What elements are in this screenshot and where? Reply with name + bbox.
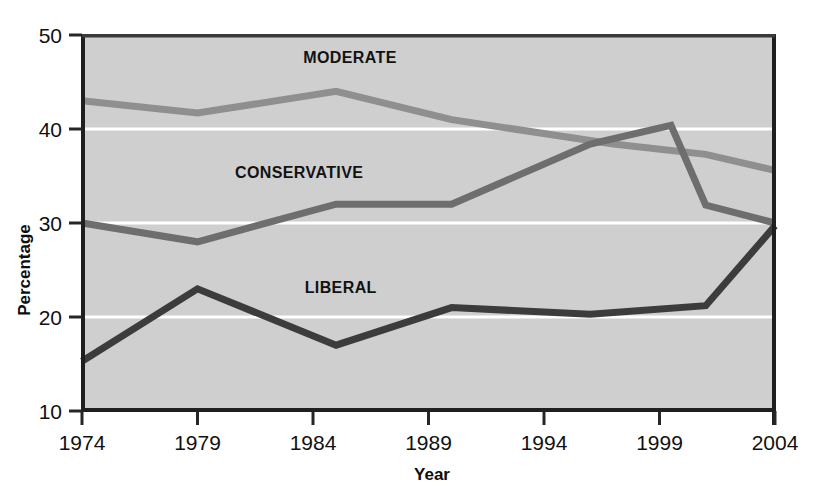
chart-canvas: 1020304050 1974197919841989199419992004 … <box>0 0 814 499</box>
x-tick-label-1974: 1974 <box>59 431 106 454</box>
series-label-moderate: MODERATE <box>303 49 397 66</box>
x-tick-label-1979: 1979 <box>174 431 221 454</box>
series-label-liberal: LIBERAL <box>305 279 377 296</box>
x-tick-label-2004: 2004 <box>752 431 799 454</box>
x-tick-label-1984: 1984 <box>290 431 337 454</box>
y-tick-label-40: 40 <box>39 118 62 141</box>
y-axis-ticks: 1020304050 <box>39 24 82 423</box>
x-tick-label-1999: 1999 <box>636 431 683 454</box>
x-axis-ticks: 1974197919841989199419992004 <box>59 411 799 454</box>
y-tick-label-50: 50 <box>39 24 62 47</box>
series-label-conservative: CONSERVATIVE <box>235 164 363 181</box>
y-tick-label-10: 10 <box>39 400 62 423</box>
line-chart: 1020304050 1974197919841989199419992004 … <box>0 0 814 499</box>
x-axis-title: Year <box>414 465 450 484</box>
y-axis-title: Percentage <box>15 224 34 316</box>
y-tick-label-20: 20 <box>39 306 62 329</box>
x-tick-label-1994: 1994 <box>521 431 568 454</box>
x-tick-label-1989: 1989 <box>405 431 452 454</box>
y-tick-label-30: 30 <box>39 212 62 235</box>
